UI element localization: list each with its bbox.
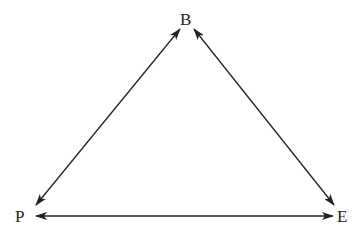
edge-p-b: [36, 29, 180, 205]
edge-b-e: [194, 29, 334, 205]
node-b: B: [180, 11, 191, 28]
node-e: E: [337, 208, 347, 225]
diagram-canvas: [0, 0, 363, 234]
node-p: P: [15, 208, 24, 225]
